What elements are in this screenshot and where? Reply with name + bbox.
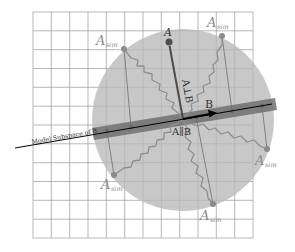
svg-text:A: A xyxy=(254,153,264,168)
sim-point-bottom-left xyxy=(111,172,117,178)
label-a-par-b: A∥B xyxy=(171,126,191,137)
svg-text:A: A xyxy=(206,15,216,30)
sim-point-right xyxy=(264,146,270,152)
svg-text:A: A xyxy=(100,177,110,192)
sim-label-bottom: A sim xyxy=(199,208,222,224)
sim-point-top-right xyxy=(219,33,225,39)
svg-text:sim: sim xyxy=(106,41,118,49)
svg-text:sim: sim xyxy=(265,161,277,169)
svg-text:sim: sim xyxy=(217,23,229,31)
svg-text:A: A xyxy=(199,208,209,223)
svg-text:sim: sim xyxy=(210,216,222,224)
sim-point-bottom xyxy=(210,201,216,207)
svg-text:sim: sim xyxy=(111,185,123,193)
sim-point-top-left xyxy=(121,46,127,52)
label-a: A xyxy=(163,26,172,39)
label-b: B xyxy=(205,98,213,111)
subspace-projection-diagram: Model Subspace of B A A⊥B B A∥B A sim A … xyxy=(0,0,295,252)
svg-text:A: A xyxy=(95,33,105,48)
sim-label-top-right: A sim xyxy=(206,15,229,31)
vector-a-point xyxy=(166,39,173,46)
